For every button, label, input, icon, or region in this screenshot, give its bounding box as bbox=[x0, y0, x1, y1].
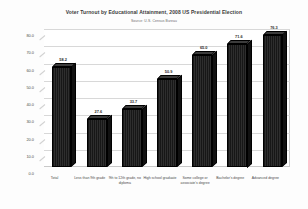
bar-value-label: 71.6 bbox=[219, 34, 259, 39]
plot-area: 58.227.633.750.965.071.676.3 bbox=[38, 29, 290, 173]
bar-value-label: 65.0 bbox=[184, 45, 224, 50]
chart-title: Voter Turnout by Educational Attainment,… bbox=[0, 9, 308, 15]
y-axis-tick-label: 80.0 bbox=[26, 33, 34, 38]
bar-column[interactable]: 50.9 bbox=[157, 29, 177, 167]
y-axis-tick-label: 60.0 bbox=[26, 67, 34, 72]
bar-side-face bbox=[71, 62, 76, 167]
bar-front-face bbox=[263, 35, 283, 167]
bar-front-face bbox=[157, 79, 177, 167]
bar-front-face bbox=[87, 119, 107, 167]
bar-side-face bbox=[247, 39, 252, 167]
x-axis-category-label: Total bbox=[36, 176, 73, 181]
bar-top-face bbox=[87, 115, 111, 119]
bar-front-face bbox=[192, 55, 212, 167]
bar-column[interactable]: 65.0 bbox=[192, 29, 212, 167]
bar-column[interactable]: 58.2 bbox=[52, 29, 72, 167]
y-axis-tick-label: 40.0 bbox=[26, 102, 34, 107]
y-axis-tick-label: 50.0 bbox=[26, 84, 34, 89]
bar-side-face bbox=[282, 31, 287, 167]
bar-column[interactable]: 76.3 bbox=[263, 29, 283, 167]
chart-subtitle: Source: U.S. Census Bureau bbox=[0, 19, 308, 23]
bar-front-face bbox=[52, 67, 72, 167]
bar-side-face bbox=[107, 115, 112, 167]
bar-top-face bbox=[122, 105, 146, 109]
bar-side-face bbox=[212, 51, 217, 167]
x-axis-category-label: Some college or associate's degree bbox=[176, 176, 213, 185]
y-axis-tick-label: 20.0 bbox=[26, 136, 34, 141]
y-axis-tick-label: 10.0 bbox=[26, 153, 34, 158]
x-axis-category-label: 9th to 12th grade, no diploma bbox=[106, 176, 143, 185]
x-axis-labels: TotalLess than 9th grade9th to 12th grad… bbox=[38, 176, 290, 209]
bar-top-face bbox=[52, 63, 76, 67]
chart-container: Voter Turnout by Educational Attainment,… bbox=[0, 0, 308, 209]
bar-value-label: 50.9 bbox=[149, 69, 189, 74]
x-axis-category-label: Advanced degree bbox=[247, 176, 284, 181]
x-axis-category-label: Less than 9th grade bbox=[71, 176, 108, 181]
bar-top-face bbox=[192, 51, 216, 55]
x-axis-category-label: High school graduate bbox=[141, 176, 178, 181]
y-axis-tick-label: 30.0 bbox=[26, 119, 34, 124]
bar-value-label: 27.6 bbox=[78, 109, 118, 114]
bar-series: 58.227.633.750.965.071.676.3 bbox=[44, 29, 290, 167]
y-axis-tick-label: 0.0 bbox=[29, 171, 34, 176]
x-axis-category-label: Bachelor's degree bbox=[212, 176, 249, 181]
bar-side-face bbox=[177, 75, 182, 167]
bar-front-face bbox=[227, 44, 247, 168]
y-axis: 0.010.020.030.040.050.060.070.080.0 bbox=[0, 0, 38, 150]
bar-top-face bbox=[263, 31, 287, 35]
y-axis-tick-label: 70.0 bbox=[26, 50, 34, 55]
bar-value-label: 33.7 bbox=[113, 99, 153, 104]
bar-top-face bbox=[227, 40, 251, 44]
bar-value-label: 58.2 bbox=[43, 57, 83, 62]
bar-front-face bbox=[122, 109, 142, 167]
bar-column[interactable]: 71.6 bbox=[227, 29, 247, 167]
bar-value-label: 76.3 bbox=[254, 25, 294, 30]
bar-side-face bbox=[142, 105, 147, 167]
bar-column[interactable]: 33.7 bbox=[122, 29, 142, 167]
bar-column[interactable]: 27.6 bbox=[87, 29, 107, 167]
